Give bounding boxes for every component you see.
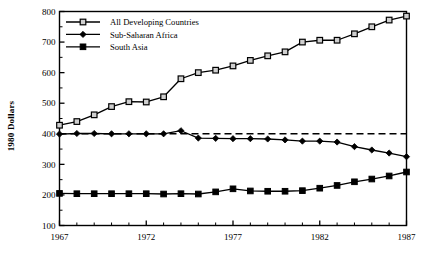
series-0-point [248, 58, 254, 64]
legend-marker-filled-diamond [80, 31, 86, 37]
series-1-point [351, 144, 357, 150]
y-tick-label: 400 [42, 129, 56, 139]
series-2-point [109, 191, 115, 197]
y-tick-label: 200 [42, 190, 56, 200]
series-1-point [403, 154, 409, 160]
series-1-point [178, 128, 184, 134]
series-2-point [196, 191, 202, 197]
series-2-point [91, 191, 97, 197]
series-1-point [108, 131, 114, 137]
series-2-point [300, 188, 306, 194]
series-0-point [265, 53, 271, 59]
series-0-point [161, 94, 167, 100]
series-0-point [57, 122, 63, 128]
line-chart: 1002003004005006007008001967197219771982… [0, 0, 424, 263]
series-1-point [230, 136, 236, 142]
x-tick-label: 1977 [224, 232, 243, 242]
series-1-point [56, 131, 62, 137]
y-axis-title: 1980 Dollars [6, 100, 16, 151]
series-0-point [213, 67, 219, 73]
series-2-point [386, 173, 392, 179]
y-tick-label: 500 [42, 98, 56, 108]
series-2-point [126, 191, 132, 197]
series-2-point [143, 191, 149, 197]
series-2-point [265, 188, 271, 194]
series-1-point [282, 137, 288, 143]
series-1-point [265, 136, 271, 142]
series-0-point [143, 99, 149, 105]
series-1-point [334, 139, 340, 145]
series-0-point [369, 24, 375, 30]
series-0-point [352, 31, 358, 37]
chart-figure: 1002003004005006007008001967197219771982… [0, 0, 424, 263]
legend-label-2: South Asia [110, 42, 148, 52]
series-2-point [161, 191, 167, 197]
legend-label-1: Sub-Saharan Africa [110, 30, 178, 40]
series-2-point [248, 188, 254, 194]
series-1-point [91, 130, 97, 136]
series-0-point [196, 70, 202, 76]
series-0-point [126, 99, 132, 105]
x-tick-label: 1982 [311, 232, 329, 242]
series-2-point [369, 176, 375, 182]
series-0-point [404, 13, 410, 19]
series-0-point [334, 37, 340, 43]
series-2-point [352, 179, 358, 185]
series-0-point [91, 112, 97, 118]
y-tick-label: 700 [42, 37, 56, 47]
legend-marker-open-square [80, 19, 86, 25]
series-2-point [178, 191, 184, 197]
y-tick-label: 800 [42, 7, 56, 17]
series-1-point [299, 138, 305, 144]
series-0-point [109, 104, 115, 110]
series-1-point [161, 131, 167, 137]
series-2-point [230, 186, 236, 192]
x-tick-label: 1967 [51, 232, 70, 242]
y-tick-label: 600 [42, 68, 56, 78]
series-2-point [404, 169, 410, 175]
series-1-point [386, 150, 392, 156]
series-0-point [300, 39, 306, 45]
series-1-point [247, 136, 253, 142]
legend-marker-filled-square [80, 44, 86, 50]
series-2-point [213, 189, 219, 195]
series-1-point [74, 130, 80, 136]
series-1-point [213, 135, 219, 141]
series-0-point [74, 119, 80, 125]
series-2-point [317, 185, 323, 191]
series-0-point [282, 49, 288, 55]
series-1-point [126, 131, 132, 137]
series-2-point [282, 188, 288, 194]
y-tick-label: 300 [42, 160, 56, 170]
series-0-point [386, 17, 392, 23]
x-tick-label: 1972 [137, 232, 155, 242]
series-1-point [317, 138, 323, 144]
legend-label-0: All Developing Countries [110, 17, 199, 27]
series-2-point [334, 183, 340, 189]
x-tick-label: 1987 [398, 232, 417, 242]
series-0-point [230, 63, 236, 69]
series-1-point [195, 135, 201, 141]
y-tick-label: 100 [42, 221, 56, 231]
series-2-point [57, 191, 63, 197]
series-1-point [143, 131, 149, 137]
series-0-point [317, 37, 323, 43]
series-0-point [178, 76, 184, 82]
series-2-point [74, 191, 80, 197]
series-1-point [369, 147, 375, 153]
